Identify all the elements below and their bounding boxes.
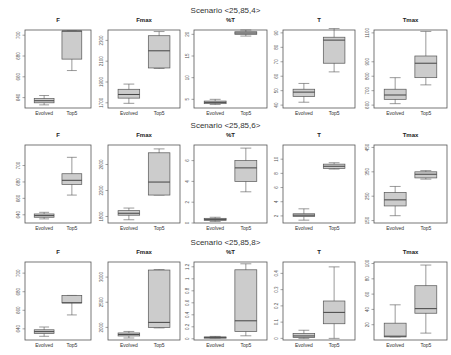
boxplot-svg: 20406080100EvolvedTop5 bbox=[0, 0, 451, 355]
box-evolved bbox=[384, 305, 406, 337]
y-tick-label: 60 bbox=[365, 291, 370, 297]
box-top5 bbox=[415, 265, 437, 333]
y-tick-label: 80 bbox=[365, 276, 370, 282]
x-category-label: Top5 bbox=[420, 342, 431, 348]
y-tick-label: 40 bbox=[365, 306, 370, 312]
x-category-label: Evolved bbox=[386, 342, 404, 348]
boxplot-panel-tmax: Tmax20406080100EvolvedTop5 bbox=[0, 0, 451, 355]
y-tick-label: 20 bbox=[365, 322, 370, 328]
y-tick-label: 100 bbox=[365, 259, 370, 267]
